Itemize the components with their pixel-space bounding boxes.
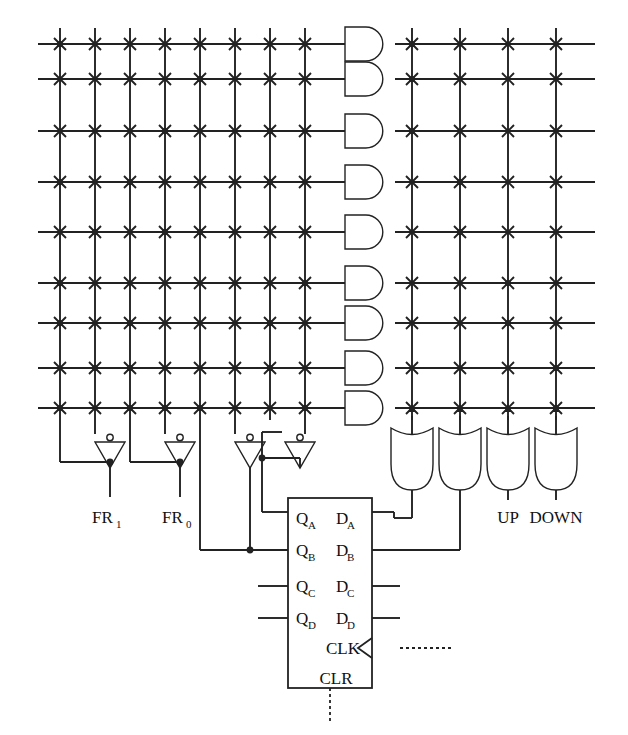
and-gate-plane	[345, 27, 383, 425]
and-gate-2	[345, 62, 383, 96]
and-gate-body-7	[345, 306, 383, 340]
output-label-up: UP	[497, 508, 519, 527]
pla-grid	[38, 28, 595, 420]
pin-label-sub: D	[308, 619, 316, 631]
or-gate-body-2	[439, 428, 481, 490]
and-gate-5	[345, 215, 383, 249]
output-label-fr0: FR0	[162, 508, 192, 530]
fr0-sub: 0	[186, 518, 192, 530]
clear-pin-label: CLR	[319, 669, 353, 688]
and-gate-7	[345, 306, 383, 340]
and-gate-body-9	[345, 391, 383, 425]
pin-label-sub: B	[347, 551, 354, 563]
or-gate-4	[535, 404, 577, 500]
pin-label-sub: C	[347, 587, 354, 599]
inverter-3	[235, 434, 265, 468]
pin-label-base: Q	[296, 509, 308, 528]
pin-label-sub: B	[308, 551, 315, 563]
and-gate-6	[345, 266, 383, 300]
fr1-sub: 1	[116, 518, 122, 530]
or-gate-body-1	[391, 428, 433, 490]
or-gate-2	[439, 404, 481, 500]
inverter-bank	[95, 434, 315, 468]
output-label-down: DOWN	[530, 508, 583, 527]
and-gate-body-8	[345, 351, 383, 385]
or-gate-1	[391, 404, 433, 500]
fr1-base: FR	[92, 508, 113, 527]
and-gate-9	[345, 391, 383, 425]
and-gate-body-1	[345, 27, 383, 61]
schematic-canvas: QAQBQCQDDADBDCDDCLKCLRFR1FR0UPDOWN	[0, 0, 628, 735]
and-gate-body-3	[345, 114, 383, 148]
qb-net-junction	[247, 547, 254, 554]
or-gate-3	[487, 404, 529, 500]
and-gate-3	[345, 114, 383, 148]
output-label-fr1: FR1	[92, 508, 122, 530]
and-gate-8	[345, 351, 383, 385]
fr0-base: FR	[162, 508, 183, 527]
pin-label-sub: D	[347, 619, 355, 631]
pin-label-sub: C	[308, 587, 315, 599]
circuit-diagram: QAQBQCQDDADBDCDDCLKCLRFR1FR0UPDOWN	[0, 0, 628, 735]
and-gate-1	[345, 27, 383, 61]
and-gate-body-6	[345, 266, 383, 300]
or-gate-body-4	[535, 428, 577, 490]
pin-label-sub: A	[347, 519, 355, 531]
pin-label-sub: A	[308, 519, 316, 531]
and-gate-body-2	[345, 62, 383, 96]
and-gate-body-4	[345, 165, 383, 199]
pin-label-base: Q	[296, 577, 308, 596]
and-gate-4	[345, 165, 383, 199]
pin-label-base: Q	[296, 541, 308, 560]
or-gate-body-3	[487, 428, 529, 490]
pin-label-base: Q	[296, 609, 308, 628]
clock-pin-label: CLK	[326, 639, 361, 658]
or-gate-plane	[391, 404, 577, 500]
and-gate-body-5	[345, 215, 383, 249]
